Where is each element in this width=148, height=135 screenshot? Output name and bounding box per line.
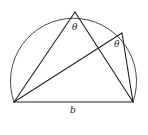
chord-label-b: b <box>70 105 76 115</box>
inscribed-angle-diagram: θ θ b <box>0 0 148 135</box>
angle-label-right: θ <box>114 39 120 49</box>
segment-a-q <box>14 33 122 102</box>
angle-label-top: θ <box>72 22 78 32</box>
segment-q-b <box>122 33 133 102</box>
